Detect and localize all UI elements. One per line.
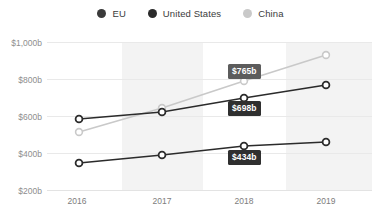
series-line-china bbox=[79, 55, 326, 132]
line-chart: EU United States China $1,000b $800b $60… bbox=[0, 0, 381, 218]
series-layer bbox=[0, 0, 381, 218]
value-label-china-2018: $765b bbox=[228, 64, 261, 79]
data-point-eu-2017[interactable] bbox=[159, 152, 166, 159]
data-point-china-2019[interactable] bbox=[323, 52, 330, 59]
data-point-eu-2016[interactable] bbox=[76, 160, 83, 167]
series-line-eu bbox=[79, 142, 326, 163]
data-point-china-2018[interactable] bbox=[241, 78, 248, 85]
value-label-united-states-2018: $698b bbox=[228, 101, 261, 116]
data-point-eu-2018[interactable] bbox=[241, 143, 248, 150]
series-line-united-states bbox=[79, 85, 326, 119]
data-point-united-states-2017[interactable] bbox=[159, 109, 166, 116]
data-point-united-states-2019[interactable] bbox=[323, 82, 330, 89]
data-point-united-states-2016[interactable] bbox=[76, 116, 83, 123]
data-point-china-2016[interactable] bbox=[76, 129, 83, 136]
value-label-eu-2018: $434b bbox=[228, 150, 261, 165]
data-point-eu-2019[interactable] bbox=[323, 139, 330, 146]
